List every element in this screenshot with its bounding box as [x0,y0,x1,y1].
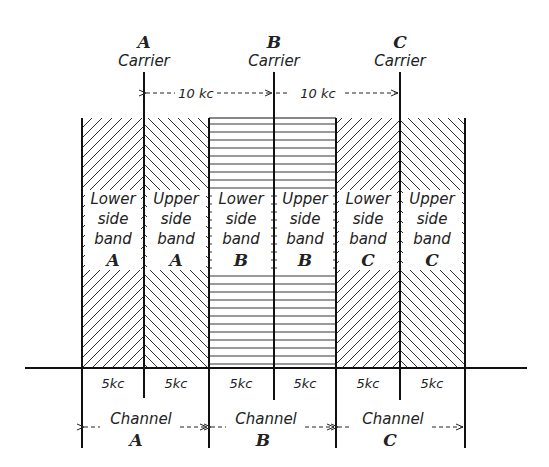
svg-text:A: A [167,250,182,270]
svg-text:Lower: Lower [345,190,391,208]
svg-text:band: band [413,230,451,248]
channel-a-letter: A [127,430,142,450]
carrier-c-letter: C [393,32,407,52]
svg-text:Upper: Upper [153,190,199,208]
svg-text:band: band [222,230,260,248]
channel-c-label: Channel [362,410,424,428]
svg-text:C: C [361,250,375,270]
carrier-c-label: Carrier [374,52,426,70]
svg-text:side: side [226,210,257,228]
carrier-b-label: Carrier [248,52,300,70]
svg-text:5kc: 5kc [165,376,188,391]
svg-text:Upper: Upper [409,190,455,208]
svg-text:5kc: 5kc [357,376,380,391]
svg-text:side: side [98,210,129,228]
svg-text:band: band [349,230,387,248]
carrier-b-letter: B [266,32,281,52]
svg-text:Lower: Lower [218,190,264,208]
svg-text:band: band [157,230,195,248]
channel-b-label: Channel [235,410,297,428]
svg-text:band: band [286,230,324,248]
svg-text:A: A [104,250,119,270]
carrier-a-label: Carrier [118,52,170,70]
channel-b-letter: B [255,430,270,450]
channel-a-label: Channel [110,410,172,428]
svg-text:C: C [425,250,439,270]
band-width-labels: 5kc 5kc 5kc 5kc 5kc 5kc [102,376,444,391]
svg-text:5kc: 5kc [421,376,444,391]
sideband-diagram: 10 kc 10 kc A Carrier B Carrier C Carrie… [0,0,549,467]
svg-text:B: B [233,250,248,270]
carrier-a-letter: A [135,32,150,52]
spacing-label-ab: 10 kc [178,86,213,101]
svg-text:side: side [417,210,448,228]
spacing-label-bc: 10 kc [300,86,335,101]
svg-text:5kc: 5kc [230,376,253,391]
svg-text:Upper: Upper [282,190,328,208]
svg-text:5kc: 5kc [294,376,317,391]
svg-text:side: side [161,210,192,228]
svg-text:band: band [94,230,132,248]
svg-text:Lower: Lower [90,190,136,208]
svg-text:5kc: 5kc [102,376,125,391]
channel-c-letter: C [383,430,397,450]
svg-text:side: side [290,210,321,228]
svg-text:side: side [353,210,384,228]
svg-text:B: B [297,250,312,270]
